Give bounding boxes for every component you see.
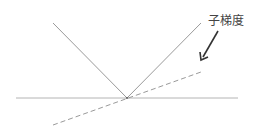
vertex-point: [126, 97, 128, 99]
right-v-line: [127, 23, 201, 98]
left-v-line: [53, 23, 127, 98]
arrow-icon: [200, 31, 218, 60]
subgradient-label: 子梯度: [208, 11, 244, 28]
